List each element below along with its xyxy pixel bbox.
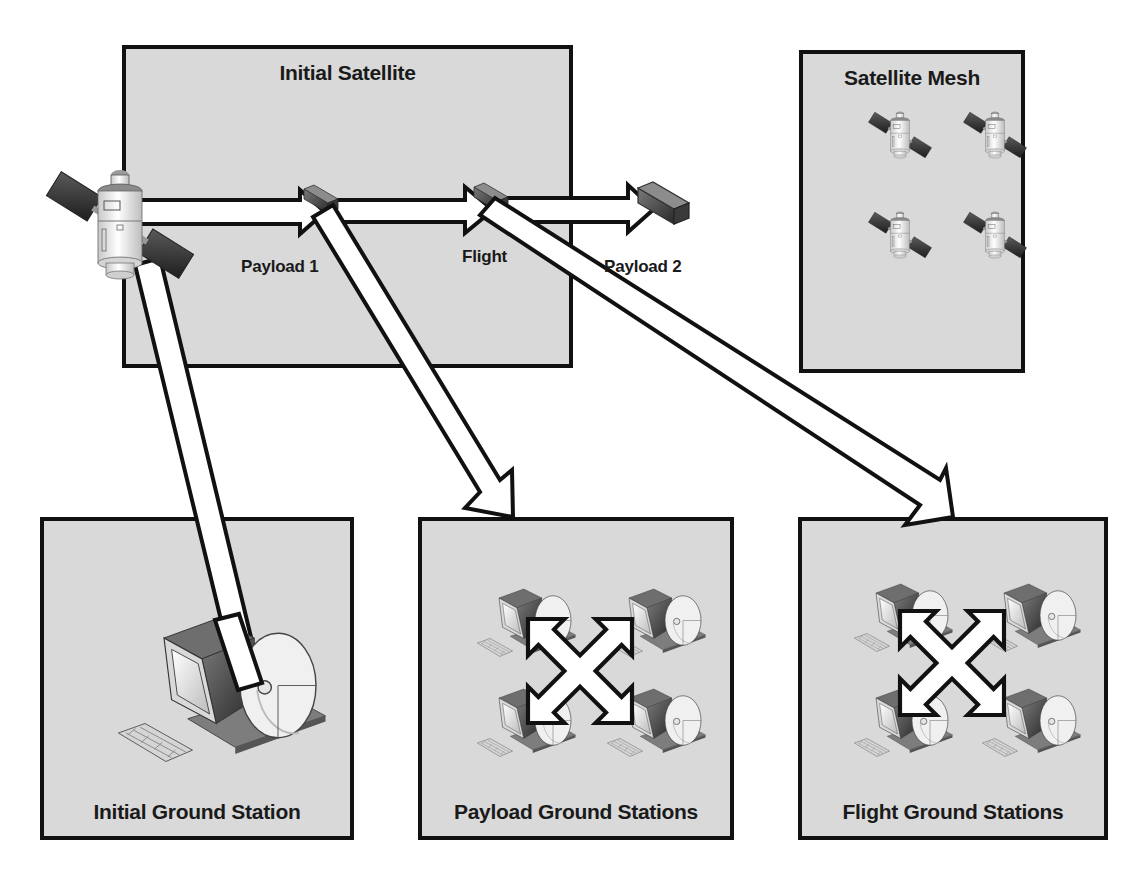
four-way-arrow-icon (528, 619, 632, 723)
payload1-label: Payload 1 (241, 257, 319, 277)
payload-ground-stations-group (477, 589, 705, 757)
chain-arrow-payload1-to-flight (325, 187, 493, 233)
mesh-satellite-icon (963, 211, 1026, 258)
flight-ground-stations-group (854, 584, 1080, 757)
flight-label: Flight (462, 247, 507, 267)
downlink-arrow-flight-ground (480, 198, 953, 525)
chain-arrow-sat-to-payload1 (140, 190, 325, 234)
four-way-arrow-icon (900, 611, 1004, 715)
payload2-label: Payload 2 (604, 257, 682, 277)
mesh-satellite-icon (868, 211, 931, 258)
mesh-satellite-icon (868, 111, 931, 158)
satellite-mesh-group (868, 111, 1026, 258)
diagram-canvas: Initial Satellite Satellite Mesh Initial… (0, 0, 1145, 876)
mesh-satellite-icon (963, 111, 1026, 158)
